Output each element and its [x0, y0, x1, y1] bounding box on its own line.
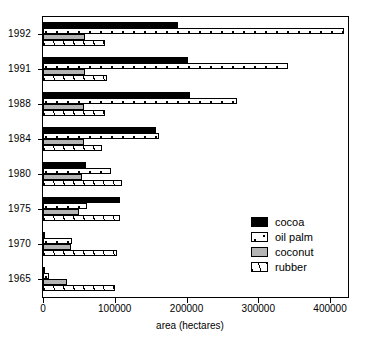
legend-item-rubber: rubber: [251, 261, 346, 274]
legend-item-oilpalm: oil palm: [251, 231, 346, 244]
y-axis-tick-label-1980: 1980: [8, 169, 38, 179]
y-axis-tick-mark-1984: [38, 139, 42, 140]
y-axis-tick-mark-1970: [38, 244, 42, 245]
x-axis-tick-label-100000: 100000: [98, 303, 131, 314]
legend-label-coconut: coconut: [275, 246, 314, 259]
bar-chart: 19921991198819841980197519701965 0100000…: [0, 0, 380, 347]
chart-legend: cocoaoil palmcoconutrubber: [251, 216, 346, 278]
legend-swatch-oilpalm-icon: [251, 232, 268, 242]
bar-rubber-1992: [43, 40, 105, 46]
x-axis-ticks: 0100000200000300000400000: [42, 298, 349, 303]
x-axis-tick-label-0: 0: [40, 303, 46, 314]
bar-oilpalm-1992: [43, 28, 344, 34]
y-axis-tick-mark-1975: [38, 209, 42, 210]
y-axis-tick-mark-1965: [38, 279, 42, 280]
y-axis-tick-mark-1988: [38, 104, 42, 105]
legend-swatch-cocoa-icon: [251, 217, 268, 227]
y-axis-tick-label-1992: 1992: [8, 29, 38, 39]
bar-rubber-1965: [43, 285, 115, 291]
y-axis-tick-label-1970: 1970: [8, 239, 38, 249]
x-axis-title: area (hectares): [0, 320, 380, 331]
legend-label-rubber: rubber: [275, 261, 307, 274]
y-axis-tick-mark-1992: [38, 34, 42, 35]
bar-rubber-1980: [43, 180, 122, 186]
y-axis-tick-label-1965: 1965: [8, 274, 38, 284]
y-axis-tick-label-1991: 1991: [8, 64, 38, 74]
bar-rubber-1970: [43, 250, 117, 256]
y-axis-tick-label-1988: 1988: [8, 99, 38, 109]
bar-rubber-1975: [43, 215, 120, 221]
y-axis-tick-mark-1991: [38, 69, 42, 70]
x-axis-tick-label-200000: 200000: [170, 303, 203, 314]
bar-rubber-1984: [43, 145, 102, 151]
y-axis-labels: 19921991198819841980197519701965: [0, 16, 38, 298]
x-axis-tick-label-400000: 400000: [313, 303, 346, 314]
y-axis-tick-label-1984: 1984: [8, 134, 38, 144]
legend-swatch-coconut-icon: [251, 247, 268, 257]
bar-rubber-1988: [43, 110, 105, 116]
legend-item-coconut: coconut: [251, 246, 346, 259]
bar-rubber-1991: [43, 75, 107, 81]
legend-swatch-rubber-icon: [251, 262, 268, 272]
legend-label-cocoa: cocoa: [275, 216, 304, 229]
y-axis-tick-mark-1980: [38, 174, 42, 175]
y-axis-tick-label-1975: 1975: [8, 204, 38, 214]
x-axis-tick-label-300000: 300000: [242, 303, 275, 314]
legend-item-cocoa: cocoa: [251, 216, 346, 229]
legend-label-oilpalm: oil palm: [275, 231, 313, 244]
